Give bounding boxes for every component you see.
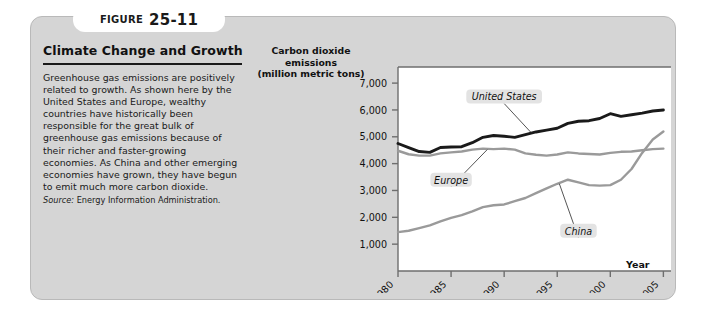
figure-number: 25-11 — [149, 11, 198, 29]
y-axis-tick-label: 1,000 — [360, 239, 387, 250]
title-divider — [43, 63, 242, 65]
source-note: Source: Energy Information Administratio… — [43, 195, 243, 205]
y-axis-tick-label: 4,000 — [360, 158, 387, 169]
description-panel: Climate Change and Growth Greenhouse gas… — [43, 43, 248, 205]
x-axis-tick-label: 1990 — [477, 279, 502, 293]
annotation-label: United States — [472, 91, 537, 102]
annotation-label: China — [565, 226, 593, 237]
x-axis-tick-label: 1985 — [423, 279, 448, 293]
source-text: Energy Information Administration. — [77, 195, 221, 205]
x-axis-tick-label: 2005 — [636, 279, 661, 293]
line-chart-plot: 1,0002,0003,0004,0005,0006,0007,00019801… — [256, 31, 671, 293]
y-axis-tick-label: 6,000 — [360, 105, 387, 116]
figure-number-pill: FIGURE 25-11 — [73, 7, 225, 32]
figure-card: FIGURE 25-11 Climate Change and Growth G… — [30, 16, 676, 300]
annotation-label: Europe — [434, 175, 468, 186]
figure-label-word: FIGURE — [100, 14, 143, 25]
y-axis-tick-label: 3,000 — [360, 185, 387, 196]
panel-body-text: Greenhouse gas emissions are positively … — [43, 72, 239, 193]
x-axis-tick-label: 1995 — [530, 279, 555, 293]
y-axis-tick-label: 7,000 — [360, 78, 387, 89]
x-axis-tick-label: 2000 — [583, 279, 608, 293]
panel-title: Climate Change and Growth — [43, 43, 248, 58]
x-axis-title: Year — [626, 259, 650, 270]
x-axis-tick-label: 1980 — [370, 279, 395, 293]
y-axis-tick-label: 5,000 — [360, 131, 387, 142]
y-axis-tick-label: 2,000 — [360, 212, 387, 223]
chart-container: Carbon dioxide emissions (million metric… — [256, 31, 671, 293]
source-label: Source: — [43, 195, 74, 205]
